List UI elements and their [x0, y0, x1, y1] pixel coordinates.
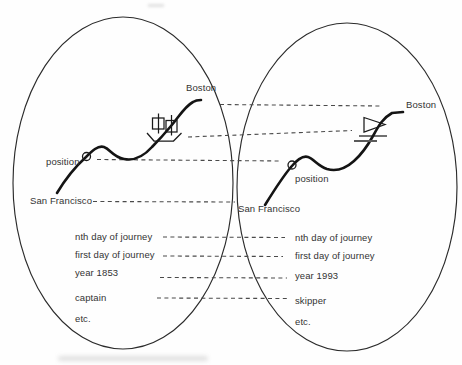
left-oval [13, 17, 233, 349]
right-boston-label: Boston [406, 99, 436, 110]
left-position-label: position [46, 156, 80, 167]
right-attribute-first-day: first day of journey [295, 250, 375, 261]
right-attribute-nth-day: nth day of journey [295, 232, 372, 243]
ship-sailboat-correspondence-line [188, 131, 352, 138]
scan-smudge [58, 356, 208, 361]
right-san-francisco-label: San Francisco [238, 203, 300, 214]
left-attribute-year: year 1853 [75, 267, 118, 278]
right-attribute-year: year 1993 [295, 270, 338, 281]
right-attribute-skipper: skipper [295, 295, 326, 306]
left-boston-label: Boston [186, 82, 216, 93]
right-attribute-etc: etc. [295, 316, 311, 327]
right-position-label: position [295, 173, 329, 184]
analogy-mapping-figure: Boston position San Francisco nth day of… [0, 0, 462, 365]
captain-skipper-correspondence-line [157, 298, 287, 299]
year-correspondence-line [160, 278, 287, 279]
first-day-correspondence-line [163, 256, 283, 257]
left-attribute-first-day: first day of journey [75, 249, 155, 260]
right-oval [237, 23, 457, 351]
left-attribute-etc: etc. [75, 313, 91, 324]
left-attribute-captain: captain [75, 292, 106, 303]
boston-correspondence-line [220, 105, 381, 107]
left-attribute-nth-day: nth day of journey [75, 231, 152, 242]
diagram-linework [0, 0, 462, 365]
left-san-francisco-label: San Francisco [30, 195, 92, 206]
nth-day-correspondence-line [163, 237, 285, 238]
left-route-path [57, 100, 201, 193]
scan-speck [148, 4, 164, 7]
san-francisco-correspondence-line [93, 202, 235, 203]
